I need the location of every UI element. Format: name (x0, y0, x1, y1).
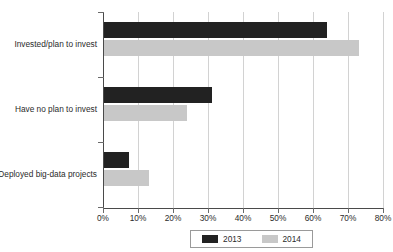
bar-2014-invested-plan-to-invest (103, 40, 359, 56)
legend-swatch-icon-2014 (262, 235, 278, 243)
category-label-invested-plan-to-invest: Invested/plan to invest (0, 39, 97, 49)
legend-label-2014: 2014 (283, 234, 301, 244)
chart-legend: 2013 2014 (190, 230, 313, 248)
legend-label-2013: 2013 (223, 234, 241, 244)
y-axis-line (103, 12, 104, 208)
x-axis-tick-label: 30% (188, 213, 228, 223)
x-axis-tick-label: 70% (328, 213, 368, 223)
bar-chart: Invested/plan to invest Have no plan to … (0, 0, 393, 252)
x-axis-tick-label: 50% (258, 213, 298, 223)
x-axis-tick-label: 60% (293, 213, 333, 223)
x-axis-tick-label: 80% (363, 213, 393, 223)
bar-2013-invested-plan-to-invest (103, 22, 327, 38)
y-axis-tick (98, 12, 104, 13)
x-axis-tick-label: 40% (223, 213, 263, 223)
plot-area (103, 12, 383, 208)
x-axis-tick-label: 10% (118, 213, 158, 223)
category-label-have-no-plan-to-invest: Have no plan to invest (0, 104, 97, 114)
legend-item-2014[interactable]: 2014 (262, 234, 301, 244)
category-label-deployed-big-data-projects: Deployed big-data projects (0, 169, 97, 179)
bar-2014-have-no-plan-to-invest (103, 105, 187, 121)
y-axis-tick (98, 77, 104, 78)
x-axis-tick-label: 20% (153, 213, 193, 223)
y-axis-tick (98, 142, 104, 143)
bar-2014-deployed-big-data-projects (103, 170, 149, 186)
legend-swatch-icon-2013 (202, 235, 218, 243)
gridline (383, 12, 384, 208)
bar-2013-have-no-plan-to-invest (103, 87, 212, 103)
bar-2013-deployed-big-data-projects (103, 152, 129, 168)
legend-item-2013[interactable]: 2013 (202, 234, 241, 244)
x-axis-tick-label: 0% (83, 213, 123, 223)
